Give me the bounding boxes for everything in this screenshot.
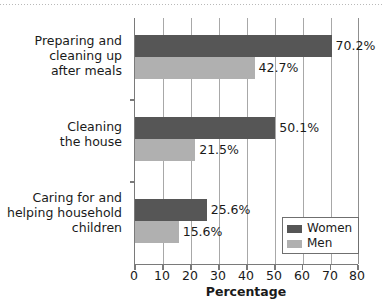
value-label-men-cleaning-house: 21.5% — [195, 139, 239, 161]
category-label-caring-children: Caring for and helping household childre… — [0, 190, 128, 235]
value-label-men-preparing-meals: 42.7% — [255, 57, 299, 79]
category-label-cleaning-house: Cleaning the house — [0, 119, 128, 149]
x-tick-label-40: 40 — [238, 268, 254, 283]
bar-men-caring-children — [135, 221, 179, 243]
value-label-women-preparing-meals: 70.2% — [332, 35, 376, 57]
value-label-women-cleaning-house: 50.1% — [275, 117, 319, 139]
bar-women-caring-children — [135, 199, 207, 221]
value-label-men-caring-children: 15.6% — [179, 221, 223, 243]
legend-swatch-men-icon — [287, 240, 302, 248]
chart-page: { "chart_data": { "type": "bar", "orient… — [0, 0, 383, 307]
legend-label-women: Women — [307, 221, 352, 236]
x-axis-title: Percentage — [134, 284, 358, 299]
legend-label-men: Men — [307, 236, 332, 251]
bar-women-cleaning-house — [135, 117, 275, 139]
value-label-women-caring-children: 25.6% — [207, 199, 251, 221]
bar-men-cleaning-house — [135, 139, 195, 161]
legend-swatch-women-icon — [287, 225, 302, 233]
x-tick-label-80: 80 — [349, 268, 365, 283]
x-tick-label-70: 70 — [322, 268, 338, 283]
bar-women-preparing-meals — [135, 35, 332, 57]
legend-row-men: Men — [287, 236, 354, 251]
bar-men-preparing-meals — [135, 57, 255, 79]
category-label-preparing-meals: Preparing and cleaning up after meals — [0, 33, 128, 78]
x-tick-label-0: 0 — [130, 268, 138, 283]
legend: Women Men — [282, 217, 359, 254]
x-tick-label-20: 20 — [182, 268, 198, 283]
x-tick-label-30: 30 — [210, 268, 226, 283]
plot-area: 70.2% 42.7% 50.1% 21.5% 25.6% 15.6% Wome… — [134, 18, 358, 265]
y-axis-tick-1 — [130, 99, 135, 101]
x-tick-label-50: 50 — [266, 268, 282, 283]
y-axis-category-labels: Preparing and cleaning up after meals Cl… — [0, 0, 128, 307]
x-tick-label-10: 10 — [154, 268, 170, 283]
legend-row-women: Women — [287, 221, 354, 236]
y-axis-tick-2 — [130, 181, 135, 183]
x-tick-label-60: 60 — [294, 268, 310, 283]
